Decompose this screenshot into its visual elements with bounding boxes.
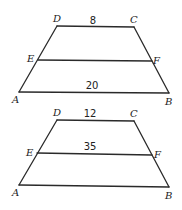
length-label-dc: 12 (84, 108, 97, 119)
vertex-label-a: A (11, 94, 19, 105)
trapezoid-figure-2: A B C D E F 12 35 (11, 107, 172, 201)
vertex-label-c: C (130, 108, 138, 119)
segment-ad (19, 26, 57, 92)
diagram-canvas: A B C D E F 8 20 A B C D E F 12 35 (0, 0, 182, 210)
vertex-label-e: E (25, 147, 34, 158)
trapezoid-figure-1: A B C D E F 8 20 (11, 13, 172, 107)
segment-dc (57, 120, 134, 121)
vertex-label-e: E (26, 53, 35, 64)
segment-cb (134, 27, 169, 93)
length-label-dc: 8 (90, 15, 96, 26)
vertex-label-d: D (52, 13, 61, 24)
vertex-label-b: B (164, 96, 172, 107)
vertex-label-c: C (130, 14, 138, 25)
vertex-label-a: A (11, 187, 19, 198)
segment-dc (57, 26, 134, 27)
segment-ef (38, 60, 152, 61)
length-label-ef: 35 (84, 141, 97, 152)
vertex-label-b: B (164, 190, 172, 201)
vertex-label-f: F (152, 55, 161, 66)
vertex-label-d: D (52, 107, 61, 118)
length-label-ab: 20 (86, 80, 99, 91)
segment-cb (134, 121, 169, 187)
segment-ba (19, 92, 169, 93)
segment-ba (19, 185, 169, 187)
vertex-label-f: F (153, 149, 162, 160)
segment-ef (37, 153, 152, 155)
